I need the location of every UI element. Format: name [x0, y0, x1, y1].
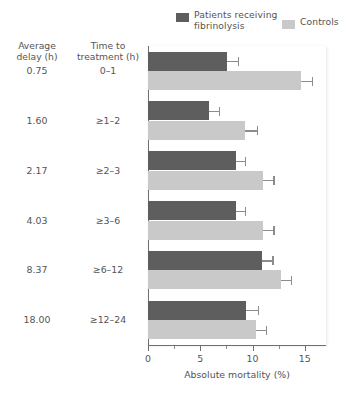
bar-fibrinolysis — [148, 151, 236, 170]
x-tick-minor — [279, 346, 280, 349]
error-bar-cap — [273, 226, 274, 235]
bar-fibrinolysis — [148, 251, 262, 270]
error-bar-whisker — [227, 61, 237, 62]
x-axis-label: Absolute mortality (%) — [148, 369, 326, 380]
bar-controls — [148, 221, 263, 240]
error-bar-whisker — [236, 161, 245, 162]
error-bar-cap — [273, 176, 274, 185]
error-bar-whisker — [281, 280, 291, 281]
error-bar-cap — [219, 107, 220, 116]
error-bar-whisker — [263, 180, 273, 181]
error-bar-whisker — [245, 130, 256, 131]
x-tick-label: 0 — [133, 353, 163, 364]
fibrinolysis-mortality-chart: Patients receiving fibrinolysis Controls… — [0, 0, 352, 405]
error-bar-cap — [245, 157, 246, 166]
x-tick-minor — [226, 346, 227, 349]
error-bar-cap — [266, 326, 267, 335]
error-bar-cap — [245, 207, 246, 216]
row-average-delay: 18.00 — [6, 314, 68, 325]
row-average-delay: 8.37 — [6, 264, 68, 275]
legend-label-controls: Controls — [300, 17, 339, 28]
x-tick-major — [200, 346, 201, 351]
bar-fibrinolysis — [148, 52, 227, 71]
row-time-to-treatment: ≥1–2 — [72, 115, 144, 126]
bar-fibrinolysis — [148, 101, 209, 120]
column-header-time-to-treatment: Time to treatment (h) — [72, 41, 144, 63]
row-average-delay: 4.03 — [6, 215, 68, 226]
row-average-delay: 0.75 — [6, 65, 68, 76]
bar-fibrinolysis — [148, 301, 246, 320]
error-bar-cap — [312, 77, 313, 86]
error-bar-cap — [238, 57, 239, 66]
x-tick-minor — [174, 346, 175, 349]
row-average-delay: 2.17 — [6, 165, 68, 176]
error-bar-whisker — [263, 230, 273, 231]
bar-controls — [148, 270, 281, 289]
x-tick-label: 10 — [238, 353, 268, 364]
error-bar-cap — [291, 276, 292, 285]
x-tick-major — [148, 346, 149, 351]
error-bar-whisker — [301, 81, 312, 82]
x-tick-major — [305, 346, 306, 351]
row-time-to-treatment: ≥3–6 — [72, 215, 144, 226]
legend-swatch-controls — [282, 20, 295, 29]
error-bar-whisker — [209, 111, 219, 112]
row-time-to-treatment: ≥12–24 — [72, 314, 144, 325]
bar-controls — [148, 171, 263, 190]
bar-controls — [148, 121, 245, 140]
error-bar-whisker — [256, 330, 266, 331]
row-average-delay: 1.60 — [6, 115, 68, 126]
legend-entry-controls: Controls — [282, 17, 339, 29]
column-header-average-delay: Average delay (h) — [6, 41, 68, 63]
error-bar-cap — [272, 256, 273, 265]
error-bar-whisker — [246, 310, 257, 311]
error-bar-whisker — [262, 260, 272, 261]
legend-label-fibrinolysis: Patients receiving fibrinolysis — [194, 10, 277, 31]
legend-swatch-fibrinolysis — [176, 13, 189, 22]
x-tick-major — [253, 346, 254, 351]
bar-controls — [148, 320, 256, 339]
bar-fibrinolysis — [148, 201, 236, 220]
error-bar-whisker — [236, 211, 245, 212]
row-time-to-treatment: 0–1 — [72, 65, 144, 76]
chart-legend: Patients receiving fibrinolysis Controls — [176, 8, 352, 40]
bar-controls — [148, 71, 301, 90]
row-time-to-treatment: ≥6–12 — [72, 264, 144, 275]
x-tick-label: 5 — [185, 353, 215, 364]
x-tick-label: 15 — [290, 353, 320, 364]
error-bar-cap — [258, 306, 259, 315]
error-bar-cap — [257, 126, 258, 135]
row-time-to-treatment: ≥2–3 — [72, 165, 144, 176]
legend-entry-fibrinolysis: Patients receiving fibrinolysis — [176, 10, 277, 31]
